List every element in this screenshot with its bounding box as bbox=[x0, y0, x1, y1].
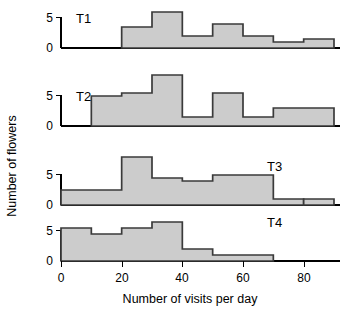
t1-ytick-label-5: 5 bbox=[46, 11, 53, 25]
y-axis-title: Number of flowers bbox=[5, 115, 19, 216]
xtick-label-40: 40 bbox=[175, 271, 189, 285]
t4-histogram-bars bbox=[61, 222, 273, 261]
t4-ytick-label-0: 0 bbox=[46, 254, 53, 268]
x-axis-title: Number of visits per day bbox=[123, 292, 259, 306]
t3-ytick-label-0: 0 bbox=[46, 198, 53, 212]
t2-ytick-label-5: 5 bbox=[46, 89, 53, 103]
panel-label-t1: T1 bbox=[76, 11, 91, 26]
panel-label-t3: T3 bbox=[267, 159, 282, 174]
xtick-label-80: 80 bbox=[297, 271, 311, 285]
t1-ytick-label-0: 0 bbox=[46, 41, 53, 55]
xtick-label-20: 20 bbox=[115, 271, 129, 285]
panel-label-t4: T4 bbox=[267, 215, 282, 230]
xtick-label-0: 0 bbox=[58, 271, 65, 285]
panel-t4: 5 0 T4 0 20 40 60 80 bbox=[46, 215, 340, 285]
panel-t1: 5 0 T1 bbox=[46, 11, 340, 55]
panel-t2: 5 0 T2 bbox=[46, 75, 340, 133]
panel-t3: 5 0 T3 bbox=[46, 157, 340, 212]
t2-histogram-bars bbox=[91, 75, 334, 126]
panel-label-t2: T2 bbox=[76, 89, 91, 104]
t2-ytick-label-0: 0 bbox=[46, 119, 53, 133]
histogram-figure: Number of flowers 5 0 T1 5 0 T2 bbox=[0, 0, 346, 326]
t3-ytick-label-5: 5 bbox=[46, 168, 53, 182]
xtick-label-60: 60 bbox=[236, 271, 250, 285]
t3-histogram-bar-last bbox=[304, 199, 334, 205]
figure-svg: Number of flowers 5 0 T1 5 0 T2 bbox=[0, 0, 346, 326]
t4-ytick-label-5: 5 bbox=[46, 224, 53, 238]
t1-histogram-bars bbox=[122, 12, 334, 48]
